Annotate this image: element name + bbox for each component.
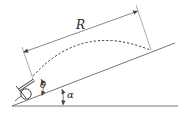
range-extension-lines xyxy=(22,5,151,79)
alpha-angle-arc xyxy=(62,89,63,105)
theta-label: θ xyxy=(40,79,46,90)
projectile-incline-diagram: R θ α xyxy=(0,0,186,114)
range-label: R xyxy=(75,18,85,32)
cannon-icon xyxy=(15,80,34,101)
incline-plane xyxy=(12,43,175,106)
alpha-label: α xyxy=(67,89,74,100)
trajectory-path xyxy=(33,40,150,76)
